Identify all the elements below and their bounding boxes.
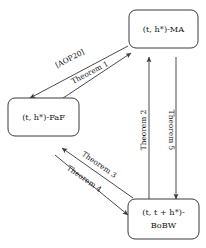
edge-aop20-label: [AOP20] xyxy=(54,47,86,70)
diagram-container: [AOP20] Theorem 1 Theorem 2 Theorem 5 Th… xyxy=(0,0,206,248)
edge-theorem2-label: Theorem 2 xyxy=(139,110,148,150)
node-ma-label: (t, h*)-MA xyxy=(143,24,184,34)
node-faf-label: (t, h*)-FaF xyxy=(22,112,65,122)
node-bobw-box[interactable] xyxy=(128,199,199,239)
node-bobw-label-line1: (t, t + h*)- xyxy=(142,207,185,217)
edge-theorem5: Theorem 5 xyxy=(167,57,176,199)
node-faf[interactable]: (t, h*)-FaF xyxy=(8,98,79,136)
edge-theorem1-label: Theorem 1 xyxy=(70,59,110,86)
node-bobw[interactable]: (t, t + h*)- BoBW xyxy=(128,199,199,239)
edge-theorem2: Theorem 2 xyxy=(139,57,149,202)
edge-theorem5-label: Theorem 5 xyxy=(167,110,176,151)
node-bobw-label-line2: BoBW xyxy=(151,220,177,230)
diagram-canvas: [AOP20] Theorem 1 Theorem 2 Theorem 5 Th… xyxy=(0,0,206,248)
node-ma[interactable]: (t, h*)-MA xyxy=(129,10,198,48)
